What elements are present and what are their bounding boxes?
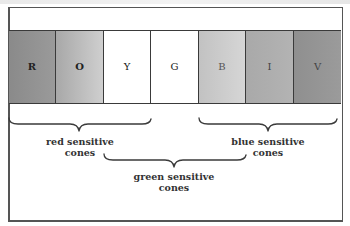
band-violet: V bbox=[294, 31, 341, 103]
band-letter: I bbox=[268, 61, 272, 72]
label-line: cones bbox=[124, 182, 224, 193]
spectrum-bar: R O Y G B I V bbox=[9, 30, 341, 104]
band-yellow: Y bbox=[104, 31, 151, 103]
band-blue: B bbox=[199, 31, 246, 103]
band-green: G bbox=[151, 31, 199, 103]
label-line: red sensitive bbox=[30, 136, 130, 147]
label-line: blue sensitive bbox=[218, 136, 318, 147]
band-letter: R bbox=[28, 61, 36, 72]
page-top-edge bbox=[0, 0, 350, 4]
band-letter: Y bbox=[124, 61, 131, 72]
band-red: R bbox=[9, 31, 56, 103]
label-line: green sensitive bbox=[124, 171, 224, 182]
band-letter: B bbox=[218, 61, 225, 72]
band-indigo: I bbox=[246, 31, 294, 103]
band-letter: G bbox=[171, 61, 179, 72]
brace-green-sensitive bbox=[103, 152, 249, 170]
brace-blue-sensitive bbox=[198, 116, 340, 134]
brace-red-sensitive bbox=[8, 116, 154, 134]
label-green-sensitive-cones: green sensitive cones bbox=[124, 171, 224, 193]
band-letter: V bbox=[314, 61, 321, 72]
band-letter: O bbox=[75, 61, 84, 72]
band-orange: O bbox=[56, 31, 104, 103]
